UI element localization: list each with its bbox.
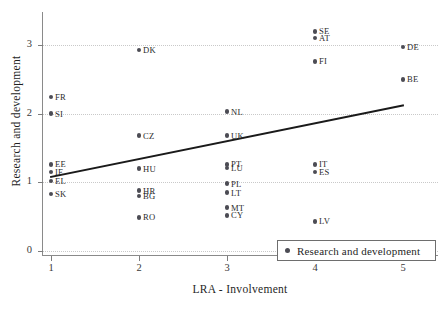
data-point-se — [313, 29, 318, 34]
y-tick-mark — [38, 114, 43, 115]
y-tick-mark — [38, 45, 43, 46]
y-axis-title: Research and development — [10, 1, 22, 241]
data-point-label-bg: BG — [143, 192, 155, 201]
x-tick-mark — [51, 256, 52, 261]
y-tick-mark — [38, 182, 43, 183]
data-point-es — [313, 170, 318, 175]
y-tick-label: 0 — [6, 244, 32, 255]
data-point-bg — [137, 194, 142, 199]
data-point-label-si: SI — [55, 110, 63, 119]
y-tick-mark — [38, 251, 43, 252]
gridline-y-3 — [43, 45, 438, 46]
x-tick-label: 4 — [303, 262, 327, 273]
data-point-lt — [225, 190, 230, 195]
data-point-label-pl: PL — [231, 180, 241, 189]
data-point-pl — [225, 181, 230, 186]
data-point-label-de: DE — [407, 43, 419, 52]
data-point-uk — [225, 133, 230, 138]
x-axis-title: LRA - Involvement — [42, 283, 438, 295]
data-point-label-es: ES — [319, 168, 329, 177]
data-point-label-el: EL — [55, 177, 66, 186]
data-point-label-lu: LU — [231, 164, 243, 173]
data-point-lu — [225, 166, 230, 171]
data-point-ro — [137, 215, 142, 220]
data-point-nl — [225, 109, 230, 114]
x-tick-mark — [227, 256, 228, 261]
y-axis-line — [42, 12, 43, 255]
scatter-chart: 0123 12345 SEATDEDKFIBEFRNLSICZUKEEPTITL… — [0, 0, 438, 313]
data-point-label-sk: SK — [55, 190, 66, 199]
data-point-label-lt: LT — [231, 189, 241, 198]
data-point-label-dk: DK — [143, 46, 156, 55]
data-point-ie — [49, 170, 54, 175]
data-point-lv — [313, 219, 318, 224]
data-point-ee — [49, 162, 54, 167]
data-point-label-fi: FI — [319, 57, 327, 66]
chart-legend[interactable]: Research and development — [277, 240, 436, 261]
legend-marker-icon — [285, 248, 290, 253]
data-point-label-be: BE — [407, 75, 418, 84]
data-point-fi — [313, 59, 318, 64]
data-point-cz — [137, 133, 142, 138]
data-point-label-cz: CZ — [143, 132, 154, 141]
legend-entry-label: Research and development — [297, 245, 420, 257]
data-point-at — [313, 36, 318, 41]
data-point-hr — [137, 188, 142, 193]
data-point-label-cy: CY — [231, 211, 243, 220]
data-point-hu — [137, 166, 142, 171]
data-point-label-fr: FR — [55, 93, 66, 102]
data-point-de — [401, 45, 406, 50]
data-point-fr — [49, 95, 54, 100]
data-point-label-ro: RO — [143, 213, 155, 222]
data-point-label-nl: NL — [231, 108, 243, 117]
data-point-si — [49, 111, 54, 116]
data-point-label-lv: LV — [319, 217, 330, 226]
data-point-be — [401, 77, 406, 82]
x-tick-mark — [139, 256, 140, 261]
x-tick-label: 3 — [215, 262, 239, 273]
x-tick-label: 2 — [127, 262, 151, 273]
data-point-dk — [137, 48, 142, 53]
data-point-cy — [225, 213, 230, 218]
x-tick-label: 1 — [39, 262, 63, 273]
x-tick-label: 5 — [391, 262, 415, 273]
data-point-label-hu: HU — [143, 165, 156, 174]
data-point-it — [313, 162, 318, 167]
data-point-sk — [49, 192, 54, 197]
data-point-mt — [225, 205, 230, 210]
data-point-label-at: AT — [319, 34, 330, 43]
data-point-label-uk: UK — [231, 132, 244, 141]
